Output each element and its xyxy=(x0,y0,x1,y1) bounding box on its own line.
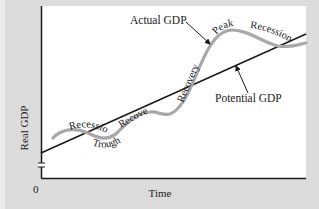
actual-gdp-label: Actual GDP xyxy=(130,14,187,26)
recession-label-2: Recession xyxy=(250,19,295,44)
y-axis-label: Real GDP xyxy=(18,106,30,151)
potential-gdp-label: Potential GDP xyxy=(215,92,282,104)
actual-gdp-arrow xyxy=(186,22,210,44)
svg-text:Recession: Recession xyxy=(0,0,110,135)
origin-label: 0 xyxy=(33,183,39,195)
x-axis-label: Time xyxy=(149,187,172,199)
potential-gdp-arrow xyxy=(236,66,248,93)
axis-break-icon xyxy=(38,163,45,167)
business-cycle-diagram: Actual GDP Potential GDP Recession Troug… xyxy=(0,0,319,209)
recession-label-1: Recession xyxy=(0,0,110,135)
svg-text:Recession: Recession xyxy=(250,19,295,44)
